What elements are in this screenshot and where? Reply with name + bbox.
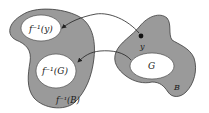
label-subset-G: G bbox=[148, 61, 155, 71]
diagram-canvas: f⁻¹(y) f⁻¹(G) f⁻¹(B) y G B bbox=[0, 0, 209, 113]
label-preimage-y: f⁻¹(y) bbox=[28, 24, 53, 34]
label-set-B: B bbox=[173, 83, 180, 92]
label-preimage-G: f⁻¹(G) bbox=[41, 66, 68, 76]
label-preimage-B: f⁻¹(B) bbox=[55, 95, 80, 105]
label-point-y: y bbox=[139, 42, 145, 51]
point-y bbox=[139, 34, 144, 39]
diagram-svg: f⁻¹(y) f⁻¹(G) f⁻¹(B) y G B bbox=[0, 0, 209, 113]
